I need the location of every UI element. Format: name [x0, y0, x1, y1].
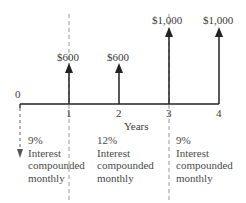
- axis-label-years: Years: [124, 120, 149, 132]
- amount-label-year-4: $1,000: [203, 14, 233, 26]
- period-line: Interest: [176, 147, 233, 160]
- tick-label-2: 2: [116, 107, 122, 119]
- tick-label-4: 4: [216, 107, 222, 119]
- cash-flow-arrow-year-2: [115, 63, 123, 104]
- period-note-2: 12% Interest compounded monthly: [97, 134, 154, 184]
- period-line: monthly: [97, 172, 154, 185]
- cash-flow-arrow-year-3: [165, 27, 173, 104]
- period-rate: 9%: [176, 134, 233, 147]
- origin-label: 0: [15, 88, 21, 100]
- period-rate: 12%: [97, 134, 154, 147]
- period-note-3: 9% Interest compounded monthly: [176, 134, 233, 184]
- period-line: Interest: [28, 147, 85, 160]
- period-line: monthly: [28, 172, 85, 185]
- amount-label-year-2: $600: [107, 51, 129, 63]
- amount-label-year-3: $1,000: [152, 14, 182, 26]
- period-rate: 9%: [28, 134, 85, 147]
- period-line: monthly: [176, 172, 233, 185]
- tick-label-1: 1: [66, 107, 72, 119]
- period-line: compounded: [28, 159, 85, 172]
- period-line: Interest: [97, 147, 154, 160]
- period-note-1: 9% Interest compounded monthly: [28, 134, 85, 184]
- period-line: compounded: [176, 159, 233, 172]
- present-value-arrow: [17, 108, 23, 158]
- tick-label-3: 3: [166, 107, 172, 119]
- period-line: compounded: [97, 159, 154, 172]
- cash-flow-arrow-year-4: [215, 27, 223, 104]
- cash-flow-arrow-year-1: [65, 63, 73, 104]
- amount-label-year-1: $600: [57, 51, 79, 63]
